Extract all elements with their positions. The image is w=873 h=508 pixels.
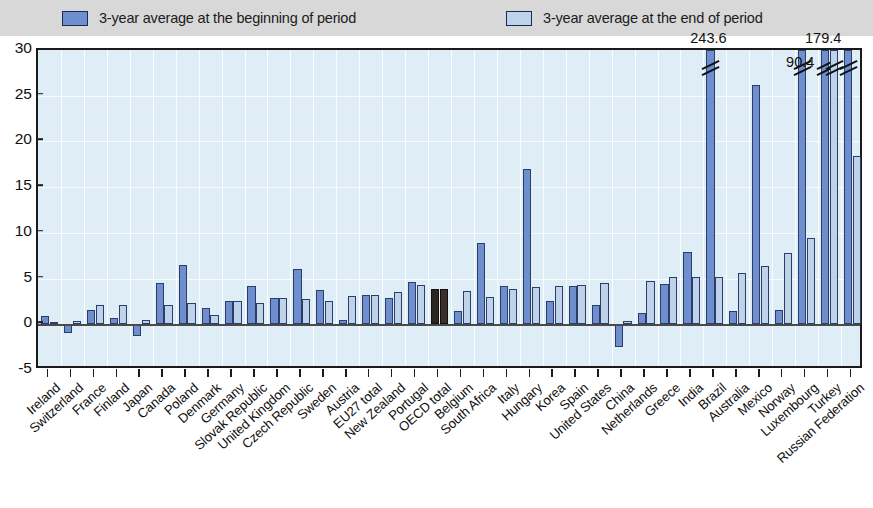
x-axis-tick	[551, 369, 553, 377]
x-axis-tick	[345, 369, 347, 377]
chart-figure: 3-year average at the beginning of perio…	[0, 0, 873, 508]
x-axis-tick	[276, 369, 278, 377]
x-axis-tick	[483, 369, 485, 377]
x-axis-tick	[322, 369, 324, 377]
x-axis-tick	[804, 369, 806, 377]
x-axis-tick	[689, 369, 691, 377]
x-axis-tick	[827, 369, 829, 377]
x-axis-tick	[666, 369, 668, 377]
y-axis-tick	[36, 321, 43, 323]
x-axis-tick	[207, 369, 209, 377]
x-axis-tick	[529, 369, 531, 377]
x-axis-tick	[230, 369, 232, 377]
x-axis-tick	[414, 369, 416, 377]
x-axis-tick	[850, 369, 852, 377]
x-axis-tick	[460, 369, 462, 377]
x-axis-tick	[368, 369, 370, 377]
x-axis-tick	[138, 369, 140, 377]
x-axis-tick	[781, 369, 783, 377]
x-axis-tick	[574, 369, 576, 377]
x-axis-tick	[620, 369, 622, 377]
x-axis-tick	[712, 369, 714, 377]
x-axis-tick	[735, 369, 737, 377]
x-axis-tick	[597, 369, 599, 377]
x-axis-tick	[70, 369, 72, 377]
y-axis-tick	[36, 93, 43, 95]
y-axis-tick	[36, 184, 43, 186]
x-axis-tick	[643, 369, 645, 377]
x-axis-tick	[506, 369, 508, 377]
y-axis-tick	[36, 139, 43, 141]
y-axis-tick	[36, 230, 43, 232]
x-axis-tick	[116, 369, 118, 377]
x-axis-tick	[437, 369, 439, 377]
x-axis-tick	[184, 369, 186, 377]
x-axis-tick	[391, 369, 393, 377]
x-axis-tick	[47, 369, 49, 377]
x-axis-labels: IrelandSwitzerlandFranceFinlandJapanCana…	[0, 0, 873, 508]
x-axis-tick	[161, 369, 163, 377]
x-axis-tick	[758, 369, 760, 377]
x-axis-tick	[93, 369, 95, 377]
x-axis-tick	[253, 369, 255, 377]
x-axis-tick	[299, 369, 301, 377]
y-axis-tick	[36, 276, 43, 278]
